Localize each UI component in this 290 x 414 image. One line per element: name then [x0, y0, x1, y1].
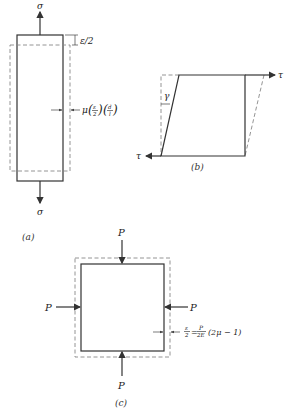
svg-text:ε: ε [93, 104, 96, 110]
load-left-label: P [44, 302, 52, 313]
svg-text:d: d [108, 104, 112, 110]
lateral-contraction-label: μ ( ε 2 ) ( d l ) [82, 103, 118, 117]
load-top-label: P [117, 227, 125, 238]
gamma-label: γ [164, 91, 170, 101]
square-original-outline [75, 258, 170, 357]
load-right-label: P [189, 302, 197, 313]
svg-text:2: 2 [184, 332, 189, 338]
strain-equation-label: ε 2 = P 2E (2μ − 1) [184, 324, 241, 338]
caption-a: (a) [22, 232, 35, 242]
svg-text:l: l [109, 111, 111, 117]
svg-text:2E: 2E [196, 332, 205, 338]
svg-text:2: 2 [92, 111, 97, 117]
undeformed-right-edge [245, 75, 264, 156]
svg-text:P: P [198, 324, 204, 331]
figure-b-shear [146, 75, 275, 156]
stress-strain-figure: σ σ ε/2 μ ( ε 2 ) ( d l ) (a) τ τ γ (b) … [0, 0, 290, 414]
load-bottom-label: P [117, 380, 125, 391]
svg-text:(2μ − 1): (2μ − 1) [208, 328, 241, 337]
caption-c: (c) [115, 398, 128, 408]
bar-deformed-outline [17, 35, 63, 181]
sheared-parallelogram [161, 75, 245, 156]
caption-b: (b) [191, 162, 204, 172]
figure-c-compression [56, 240, 188, 376]
tau-top-label: τ [278, 70, 284, 80]
svg-text:): ) [112, 103, 118, 117]
figure-a-tension [10, 12, 80, 203]
svg-text:ε: ε [185, 325, 188, 331]
sigma-bottom-label: σ [37, 207, 44, 217]
bar-original-outline [10, 45, 70, 171]
square-deformed-outline [81, 264, 164, 351]
tau-bottom-label: τ [136, 151, 142, 161]
sigma-top-label: σ [37, 1, 44, 11]
elongation-label: ε/2 [80, 36, 94, 46]
